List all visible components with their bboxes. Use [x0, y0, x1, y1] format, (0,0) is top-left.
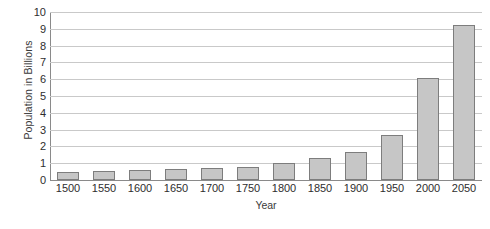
- x-tick-label-1550: 1550: [92, 182, 116, 195]
- population-bar-chart: Population in Billions 012345678910 1500…: [0, 0, 490, 229]
- y-tick-label-3: 3: [26, 124, 46, 135]
- bar-1850: [309, 158, 332, 180]
- y-axis-tick-labels: 012345678910: [26, 12, 46, 180]
- x-tick-label-1900: 1900: [344, 182, 368, 195]
- x-tick-label-2000: 2000: [416, 182, 440, 195]
- x-tick-label-1850: 1850: [308, 182, 332, 195]
- bars-layer: [50, 12, 482, 180]
- bar-2000: [417, 78, 440, 180]
- y-tick-label-2: 2: [26, 141, 46, 152]
- gridline-0: [50, 180, 482, 181]
- x-tick-label-1500: 1500: [56, 182, 80, 195]
- bar-1800: [273, 163, 296, 180]
- bar-1600: [129, 170, 152, 180]
- y-tick-label-5: 5: [26, 91, 46, 102]
- y-tick-label-4: 4: [26, 107, 46, 118]
- plot-area: [50, 12, 482, 180]
- x-tick-label-1750: 1750: [236, 182, 260, 195]
- bar-1750: [237, 167, 260, 180]
- bar-1950: [381, 135, 404, 180]
- y-tick-label-7: 7: [26, 57, 46, 68]
- bar-2050: [453, 25, 476, 180]
- x-tick-label-1650: 1650: [164, 182, 188, 195]
- x-tick-label-2050: 2050: [452, 182, 476, 195]
- bar-1700: [201, 168, 224, 180]
- x-tick-label-1700: 1700: [200, 182, 224, 195]
- x-tick-label-1950: 1950: [380, 182, 404, 195]
- bar-1500: [57, 172, 80, 180]
- x-tick-label-1600: 1600: [128, 182, 152, 195]
- bar-1550: [93, 171, 116, 180]
- bar-1650: [165, 169, 188, 180]
- y-tick-label-9: 9: [26, 23, 46, 34]
- x-axis-title: Year: [50, 199, 482, 211]
- x-tick-label-1800: 1800: [272, 182, 296, 195]
- y-tick-label-10: 10: [26, 7, 46, 18]
- y-tick-label-8: 8: [26, 40, 46, 51]
- y-tick-label-0: 0: [26, 175, 46, 186]
- x-axis-tick-labels: 1500155016001650170017501800185019001950…: [50, 182, 482, 198]
- y-tick-label-1: 1: [26, 158, 46, 169]
- bar-1900: [345, 152, 368, 180]
- y-tick-label-6: 6: [26, 74, 46, 85]
